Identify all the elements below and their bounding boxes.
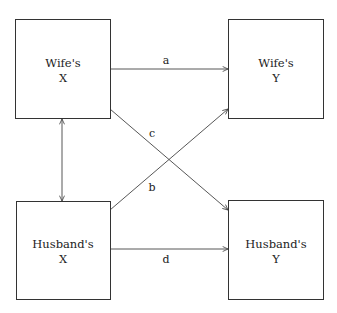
node-wife-y: Wife's Y	[229, 20, 324, 119]
edge-label-a: a	[163, 54, 170, 67]
edge-label-c: c	[149, 127, 155, 140]
node-wife-x-line1: Wife's	[45, 56, 81, 70]
apim-diagram: a c b d Wife's X Wife's Y Husband's X Hu…	[0, 0, 337, 313]
edge-label-d: d	[162, 253, 169, 266]
node-husband-y: Husband's Y	[229, 201, 324, 300]
node-husband-x-line1: Husband's	[32, 237, 93, 251]
node-wife-y-line2: Y	[271, 71, 280, 85]
node-wife-x: Wife's X	[16, 20, 111, 119]
node-husband-y-line1: Husband's	[245, 237, 306, 251]
edge-label-b: b	[148, 181, 155, 194]
node-wife-x-line2: X	[59, 71, 68, 85]
node-husband-x: Husband's X	[17, 202, 111, 300]
node-husband-x-line2: X	[59, 252, 68, 266]
node-wife-y-line1: Wife's	[258, 56, 294, 70]
node-husband-y-line2: Y	[271, 252, 280, 266]
